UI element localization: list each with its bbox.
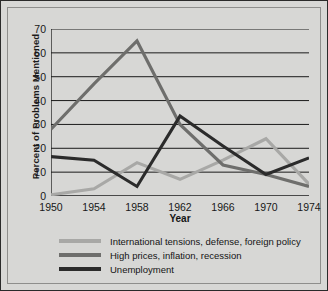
y-tick-label: 60 xyxy=(34,47,46,59)
legend-item: High prices, inflation, recession xyxy=(59,248,321,262)
x-tick-label: 1962 xyxy=(168,201,191,213)
x-tick-label: 1950 xyxy=(39,201,62,213)
legend-color-swatch xyxy=(59,239,101,243)
y-tick-label: 70 xyxy=(34,23,46,35)
legend-color-swatch xyxy=(59,253,101,257)
x-tick-label: 1966 xyxy=(211,201,234,213)
x-tick-label: 1958 xyxy=(125,201,148,213)
x-tick-label: 1970 xyxy=(254,201,277,213)
legend-item: International tensions, defense, foreign… xyxy=(59,234,321,248)
chart-legend: International tensions, defense, foreign… xyxy=(59,234,321,276)
series-line-1 xyxy=(51,139,309,195)
x-axis-title: Year xyxy=(51,213,309,224)
y-tick-label: 30 xyxy=(34,118,46,130)
chart-figure: Percent of Problems Mentioned 0102030405… xyxy=(0,0,328,291)
legend-label: International tensions, defense, foreign… xyxy=(110,236,301,247)
legend-item: Unemployment xyxy=(59,262,321,276)
legend-color-swatch xyxy=(59,267,101,271)
plot-svg xyxy=(51,29,309,196)
x-tick-label: 1954 xyxy=(82,201,105,213)
series-line-2 xyxy=(51,41,309,187)
plot-area: 0102030405060701950195419581962196619701… xyxy=(51,29,309,196)
x-tick-label: 1974 xyxy=(297,201,320,213)
y-tick-label: 20 xyxy=(34,142,46,154)
legend-label: High prices, inflation, recession xyxy=(110,250,241,261)
y-tick-label: 50 xyxy=(34,71,46,83)
y-tick-label: 10 xyxy=(34,166,46,178)
y-tick-label: 40 xyxy=(34,95,46,107)
legend-label: Unemployment xyxy=(110,264,174,275)
